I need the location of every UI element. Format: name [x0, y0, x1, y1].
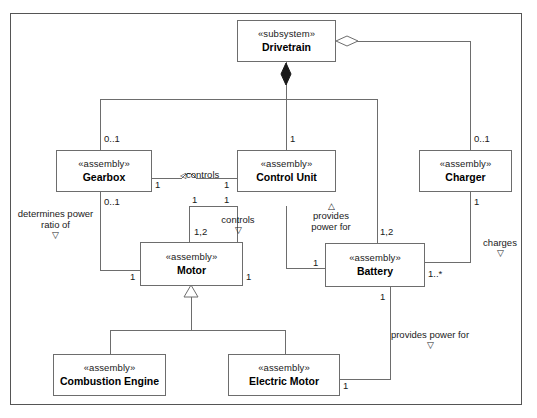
- edge-label-controls-motor: controls ▽: [216, 215, 260, 235]
- node-stereotype: «subsystem»: [258, 28, 315, 40]
- multiplicity-battery-left: 1: [313, 257, 318, 268]
- edge-label-determines-power-ratio: determines power ratio of ▽: [13, 209, 98, 240]
- multiplicity-motor-right: 1: [246, 271, 251, 282]
- node-control-unit[interactable]: «assembly» Control Unit: [237, 150, 336, 192]
- edge-label-text: controls: [221, 214, 254, 225]
- edge-label-charges: charges ▽: [478, 238, 522, 258]
- node-drivetrain[interactable]: «subsystem» Drivetrain: [237, 20, 336, 62]
- node-stereotype: «assembly»: [84, 362, 136, 374]
- edge-label-provides-power-for-electric: provides power for ▽: [377, 330, 483, 350]
- triangle-down-icon: ▽: [377, 341, 483, 350]
- node-combustion-engine[interactable]: «assembly» Combustion Engine: [53, 354, 166, 396]
- node-name: Charger: [445, 171, 485, 184]
- node-stereotype: «assembly»: [349, 252, 401, 264]
- multiplicity-control-unit-bottom-left: 1: [192, 194, 197, 205]
- multiplicity-gearbox-top: 0..1: [104, 133, 120, 144]
- multiplicity-control-unit-left: 1: [224, 179, 229, 190]
- node-stereotype: «assembly»: [258, 362, 310, 374]
- node-name: Battery: [357, 265, 393, 278]
- node-name: Electric Motor: [249, 375, 319, 388]
- triangle-down-icon: ▽: [216, 226, 260, 235]
- node-name: Motor: [177, 264, 206, 277]
- triangle-down-icon: ▽: [478, 249, 522, 258]
- node-name: Drivetrain: [262, 41, 311, 54]
- edge-label-controls-gearbox: ◁controls: [180, 170, 219, 181]
- node-motor[interactable]: «assembly» Motor: [140, 242, 243, 286]
- triangle-down-icon: ▽: [13, 231, 98, 240]
- node-gearbox[interactable]: «assembly» Gearbox: [56, 150, 152, 192]
- edge-label-text: provides power for: [391, 329, 469, 340]
- node-stereotype: «assembly»: [440, 158, 492, 170]
- node-battery[interactable]: «assembly» Battery: [325, 243, 425, 287]
- node-stereotype: «assembly»: [261, 158, 313, 170]
- edge-label-text: charges: [483, 237, 517, 248]
- edge-label-provides-power-for-battery: △ provides power for: [301, 202, 361, 233]
- multiplicity-gearbox-bottom: 0..1: [104, 196, 120, 207]
- multiplicity-control-unit-top: 1: [290, 133, 295, 144]
- multiplicity-motor-left: 1: [130, 271, 135, 282]
- node-charger[interactable]: «assembly» Charger: [419, 150, 512, 192]
- multiplicity-battery-bottom: 1: [380, 291, 385, 302]
- node-stereotype: «assembly»: [166, 251, 218, 263]
- node-electric-motor[interactable]: «assembly» Electric Motor: [228, 354, 340, 396]
- multiplicity-electric-motor-right: 1: [343, 380, 348, 391]
- edge-label-text: determines power ratio of: [18, 208, 94, 230]
- node-name: Control Unit: [256, 171, 317, 184]
- multiplicity-motor-top: 1,2: [194, 226, 207, 237]
- multiplicity-battery-right: 1..*: [428, 268, 442, 279]
- edge-label-text: provides power for: [311, 210, 351, 232]
- multiplicity-charger-top: 0..1: [474, 133, 490, 144]
- multiplicity-charger-bottom: 1: [474, 196, 479, 207]
- multiplicity-control-unit-bottom-right: 1: [224, 194, 229, 205]
- edge-label-text: controls: [186, 169, 219, 180]
- node-stereotype: «assembly»: [78, 158, 130, 170]
- node-name: Gearbox: [83, 171, 126, 184]
- multiplicity-gearbox-right: 1: [155, 179, 160, 190]
- multiplicity-battery-top: 1,2: [380, 226, 393, 237]
- node-name: Combustion Engine: [60, 375, 159, 388]
